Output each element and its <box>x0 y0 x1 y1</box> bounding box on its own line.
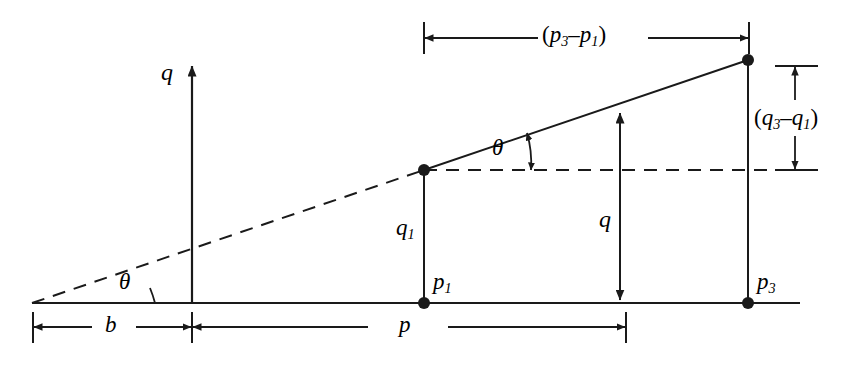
theta-label-upper: θ <box>492 136 503 159</box>
p3-label: p3 <box>757 270 776 295</box>
figure-canvas: q θ θ q1 p1 p3 q b p (p3–p1) (q3–q1) <box>0 0 850 366</box>
regression-line-solid <box>424 60 748 170</box>
theta-arc-upper <box>527 133 531 170</box>
point-p1-on-baseline <box>418 297 430 309</box>
q-axis-label: q <box>161 60 173 84</box>
p1-label: p1 <box>433 270 452 295</box>
q1-label: q1 <box>396 216 415 241</box>
b-dimension-label: b <box>105 313 117 336</box>
q-middle-label: q <box>596 205 614 233</box>
dim-p3-p1-label: (p3–p1) <box>542 23 606 48</box>
dim-q3-q1-label: (q3–q1) <box>752 105 820 132</box>
theta-arc-origin <box>150 288 155 303</box>
point-p1-on-line <box>418 164 430 176</box>
point-p3-on-baseline <box>742 297 754 309</box>
point-p3-on-line <box>742 54 754 66</box>
geometry-diagram-svg <box>0 0 850 366</box>
regression-line-dashed <box>32 170 424 303</box>
p-dimension-label: p <box>399 313 411 336</box>
theta-label-origin: θ <box>119 270 130 293</box>
